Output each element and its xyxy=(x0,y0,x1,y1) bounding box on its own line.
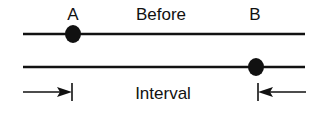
point-b-label: B xyxy=(249,5,260,24)
interval-left-arrow-icon xyxy=(23,83,72,101)
point-b-dot xyxy=(248,58,264,76)
timing-diagram: A Before B Interval xyxy=(0,0,323,115)
point-a-label: A xyxy=(67,5,79,24)
interval-label: Interval xyxy=(135,84,191,103)
interval-right-arrow-icon xyxy=(258,83,306,101)
point-a-dot xyxy=(65,25,81,43)
before-title: Before xyxy=(136,5,186,24)
